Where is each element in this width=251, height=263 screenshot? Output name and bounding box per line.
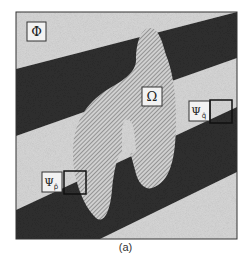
phi-label-text: Φ [31,24,42,39]
figure-caption: (a) [0,241,251,253]
psi-p-subscript: p̂ [54,183,59,191]
omega-label-text: Ω [147,89,158,104]
psi-q-subscript: q̂ [202,112,206,120]
psi-q-label: Ψ q̂ [189,101,210,121]
phi-label: Φ [27,22,46,41]
psi-p-label: Ψ p̂ [42,172,62,192]
psi-p-text: Ψ [44,176,54,189]
psi-q-text: Ψ [191,105,201,118]
omega-label: Ω [142,87,162,106]
figure-canvas: Φ Ω Ψ q̂ Ψ p̂ [0,0,251,263]
